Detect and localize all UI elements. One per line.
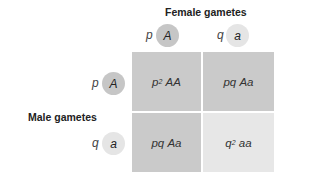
cell-genotype: Aa bbox=[167, 137, 181, 149]
cell-Aa-top: pq Aa bbox=[203, 52, 274, 111]
cell-genotype: Aa bbox=[239, 76, 253, 88]
cell-exponent: 2 bbox=[232, 139, 236, 146]
allele-label: a bbox=[234, 29, 241, 43]
allele-circle-icon: a bbox=[226, 24, 249, 47]
allele-label: A bbox=[109, 77, 117, 91]
cell-genotype: AA bbox=[166, 76, 181, 88]
cell-genotype: aa bbox=[239, 137, 252, 149]
male-freq-q: q bbox=[92, 137, 99, 149]
cell-freq: pq bbox=[151, 137, 164, 149]
allele-label: a bbox=[110, 137, 117, 151]
male-gametes-title: Male gametes bbox=[28, 111, 97, 123]
cell-Aa-bottom: pq Aa bbox=[132, 113, 201, 172]
allele-circle-icon: a bbox=[102, 132, 125, 155]
allele-circle-icon: A bbox=[102, 72, 125, 95]
female-freq-q: q bbox=[217, 29, 224, 41]
cell-AA: p2 AA bbox=[132, 52, 201, 111]
female-gametes-title: Female gametes bbox=[165, 6, 247, 18]
male-freq-p: p bbox=[92, 77, 99, 89]
allele-label: A bbox=[163, 29, 171, 43]
cell-freq: pq bbox=[223, 76, 236, 88]
allele-circle-icon: A bbox=[156, 24, 179, 47]
cell-aa: q2 aa bbox=[203, 113, 274, 172]
female-freq-p: p bbox=[146, 29, 153, 41]
cell-exponent: 2 bbox=[158, 78, 162, 85]
